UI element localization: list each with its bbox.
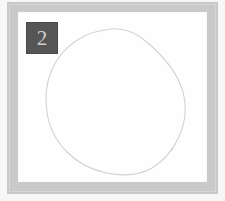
drawing-canvas: 2	[18, 12, 207, 182]
number-badge: 2	[26, 22, 58, 54]
numbered-drawing-panel: 2	[0, 0, 225, 201]
hand-drawn-circle-tail	[167, 149, 173, 155]
number-badge-label: 2	[37, 28, 48, 49]
hand-drawn-circle-path	[46, 29, 185, 175]
